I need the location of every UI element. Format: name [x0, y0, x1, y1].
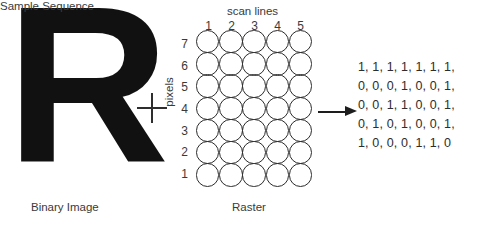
scan-lines-axis-title-text: scan lines [195, 5, 310, 17]
raster-cell [196, 119, 219, 142]
raster-cell [266, 30, 289, 53]
raster-cell [266, 141, 289, 164]
raster-row-label: 2 [173, 142, 188, 164]
binary-image-panel: R [0, 0, 160, 200]
raster-cell [266, 163, 289, 186]
raster-cell [219, 52, 242, 75]
sample-sequence-line: 1, 1, 1, 1, 1, 1, 1, [358, 58, 479, 77]
raster-cell [289, 74, 312, 97]
raster-cell [242, 141, 265, 164]
raster-cell [196, 52, 219, 75]
raster-cell [289, 141, 312, 164]
raster-row-labels: 7 6 5 4 3 2 1 [173, 33, 188, 185]
raster-cell [196, 30, 219, 53]
sample-sequence-line: 0, 0, 1, 1, 0, 0, 1, [358, 96, 479, 115]
raster-cell [219, 74, 242, 97]
raster-cell [242, 30, 265, 53]
raster-cell [219, 97, 242, 120]
raster-circle-grid [196, 30, 313, 187]
raster-cell [219, 141, 242, 164]
raster-cell [219, 163, 242, 186]
sample-sequence-line: 1, 0, 0, 0, 1, 1, 0 [358, 134, 479, 153]
raster-cell [266, 97, 289, 120]
raster-row-label: 1 [173, 163, 188, 185]
raster-cell [242, 97, 265, 120]
sample-sequence-line: 0, 0, 0, 1, 0, 0, 1, [358, 77, 479, 96]
caption-sample-sequence: Sample Sequence [0, 0, 94, 12]
raster-row-label: 5 [173, 76, 188, 98]
raster-cell [266, 119, 289, 142]
raster-cell [289, 163, 312, 186]
raster-cell [289, 97, 312, 120]
raster-cell [289, 52, 312, 75]
plus-vertical-bar [151, 93, 153, 123]
raster-cell [242, 74, 265, 97]
caption-binary-image: Binary Image [31, 201, 99, 213]
caption-raster: Raster [232, 201, 266, 213]
raster-cell [196, 163, 219, 186]
raster-panel: scan lines 1 2 3 4 5 pixels 7 6 5 4 3 2 … [170, 0, 320, 200]
arrow-shaft [318, 111, 348, 113]
raster-cell [219, 119, 242, 142]
arrow-head [345, 106, 357, 116]
raster-row-label: 3 [173, 120, 188, 142]
raster-cell [196, 74, 219, 97]
raster-cell [242, 163, 265, 186]
sample-sequence-panel: 1, 1, 1, 1, 1, 1, 1, 0, 0, 0, 1, 0, 0, 1… [358, 58, 479, 153]
raster-cell [266, 74, 289, 97]
raster-row-label: 4 [173, 98, 188, 120]
raster-cell [266, 52, 289, 75]
right-arrow-icon [318, 106, 360, 118]
raster-row-label: 6 [173, 55, 188, 77]
sample-sequence-line: 0, 1, 0, 1, 0, 0, 1, [358, 115, 479, 134]
raster-cell [219, 30, 242, 53]
raster-cell [242, 119, 265, 142]
raster-cell [196, 141, 219, 164]
raster-cell [289, 30, 312, 53]
raster-cell [242, 52, 265, 75]
raster-row-label: 7 [173, 33, 188, 55]
raster-cell [289, 119, 312, 142]
raster-cell [196, 97, 219, 120]
scan-lines-axis-title: scan lines [195, 5, 335, 17]
raster-scan-diagram: R scan lines 1 2 3 4 5 pixels 7 6 5 4 3 … [0, 0, 479, 234]
